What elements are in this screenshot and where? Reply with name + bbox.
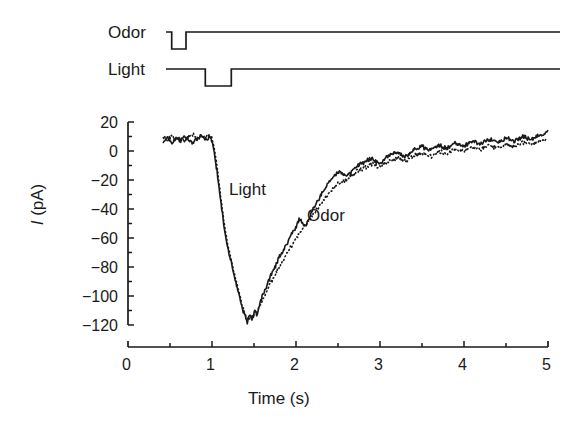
x-axis-ticks (170, 341, 506, 347)
odor-stimulus-trace (166, 32, 560, 49)
figure-panel: Odor Light Light Odor I (pA) Time (s) 20… (0, 0, 569, 421)
light-current-trace (163, 131, 547, 324)
y-axis-ticks (128, 122, 134, 325)
odor-current-trace (163, 133, 547, 320)
plot-svg (0, 0, 569, 421)
light-stimulus-trace (166, 69, 560, 86)
